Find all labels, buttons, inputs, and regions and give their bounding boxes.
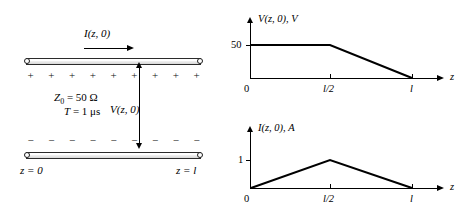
current-plot: I(z, 0), A z 1 0 l/2 l [0,0,469,217]
top-left-terminal [24,58,30,64]
transmission-line-figure: I(z, 0) + + + + + + + + + Z0 = 50 Ω T = … [0,0,469,217]
bottom-left-terminal [24,152,30,158]
bottom-right-terminal [197,152,203,158]
current-trace [0,0,469,217]
top-right-terminal [197,58,203,64]
